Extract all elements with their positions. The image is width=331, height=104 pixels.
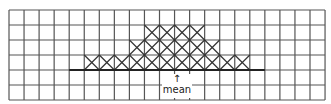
mean-label: mean [163,84,191,95]
x-marked-cells [84,25,250,70]
up-arrow-icon: ↑ [173,74,181,84]
mean-marker: ↑ mean [162,74,192,98]
